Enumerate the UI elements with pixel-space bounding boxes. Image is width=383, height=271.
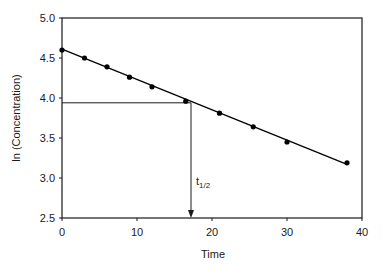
plot-frame [62,18,362,218]
x-tick-label: 0 [59,226,65,238]
y-tick-label: 3.0 [40,172,55,184]
data-point [284,139,289,144]
y-tick-label: 2.5 [40,212,55,224]
y-axis-ticks: 2.53.03.54.04.55.0 [40,12,62,224]
half-life-label: t1/2 [196,175,211,190]
data-point [104,64,109,69]
data-point [251,124,256,129]
data-point [82,55,87,60]
y-tick-label: 3.5 [40,132,55,144]
x-axis-ticks: 010203040 [59,218,368,238]
data-point [59,47,64,52]
y-tick-label: 4.0 [40,92,55,104]
chart: 2.53.03.54.04.55.0 010203040 Time ln (Co… [0,0,383,271]
data-point [217,111,222,116]
arrow-down-icon [188,210,194,218]
data-point [127,75,132,80]
y-tick-label: 4.5 [40,52,55,64]
half-life-annotation [62,103,194,218]
half-life-label-sub: 1/2 [199,181,211,190]
data-point [183,99,188,104]
data-point [149,84,154,89]
y-axis-title: ln (Concentration) [10,74,22,161]
x-tick-label: 30 [281,226,293,238]
x-tick-label: 40 [356,226,368,238]
x-axis-title: Time [201,248,225,260]
data-point [344,160,349,165]
y-tick-label: 5.0 [40,12,55,24]
x-tick-label: 10 [131,226,143,238]
x-tick-label: 20 [206,226,218,238]
